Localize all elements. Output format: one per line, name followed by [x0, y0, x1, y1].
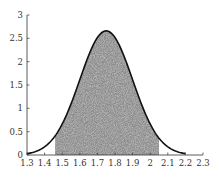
chart-canvas: 1.31.41.51.61.71.81.922.12.22.300.511.52… [0, 0, 221, 179]
y-tick-label: 0 [18, 150, 23, 160]
y-tick-label: 2.5 [9, 33, 23, 43]
y-tick-label: 1 [18, 103, 23, 113]
x-tick-label: 2.1 [161, 158, 175, 168]
x-tick-label: 1.5 [55, 158, 69, 168]
y-tick-label: 2 [18, 57, 23, 67]
density-chart: 1.31.41.51.61.71.81.922.12.22.300.511.52… [0, 0, 221, 179]
x-tick-label: 1.6 [73, 158, 87, 168]
x-tick-label: 2 [147, 158, 152, 168]
y-tick-label: 1.5 [9, 80, 23, 90]
x-tick-label: 1.7 [91, 158, 105, 168]
x-tick-label: 1.8 [108, 158, 122, 168]
x-tick-label: 2.3 [196, 158, 210, 168]
x-tick-label: 1.9 [126, 158, 140, 168]
x-tick-label: 2.2 [179, 158, 193, 168]
y-tick-label: 3 [18, 10, 23, 20]
y-tick-label: 0.5 [9, 127, 23, 137]
x-tick-label: 1.4 [38, 158, 52, 168]
